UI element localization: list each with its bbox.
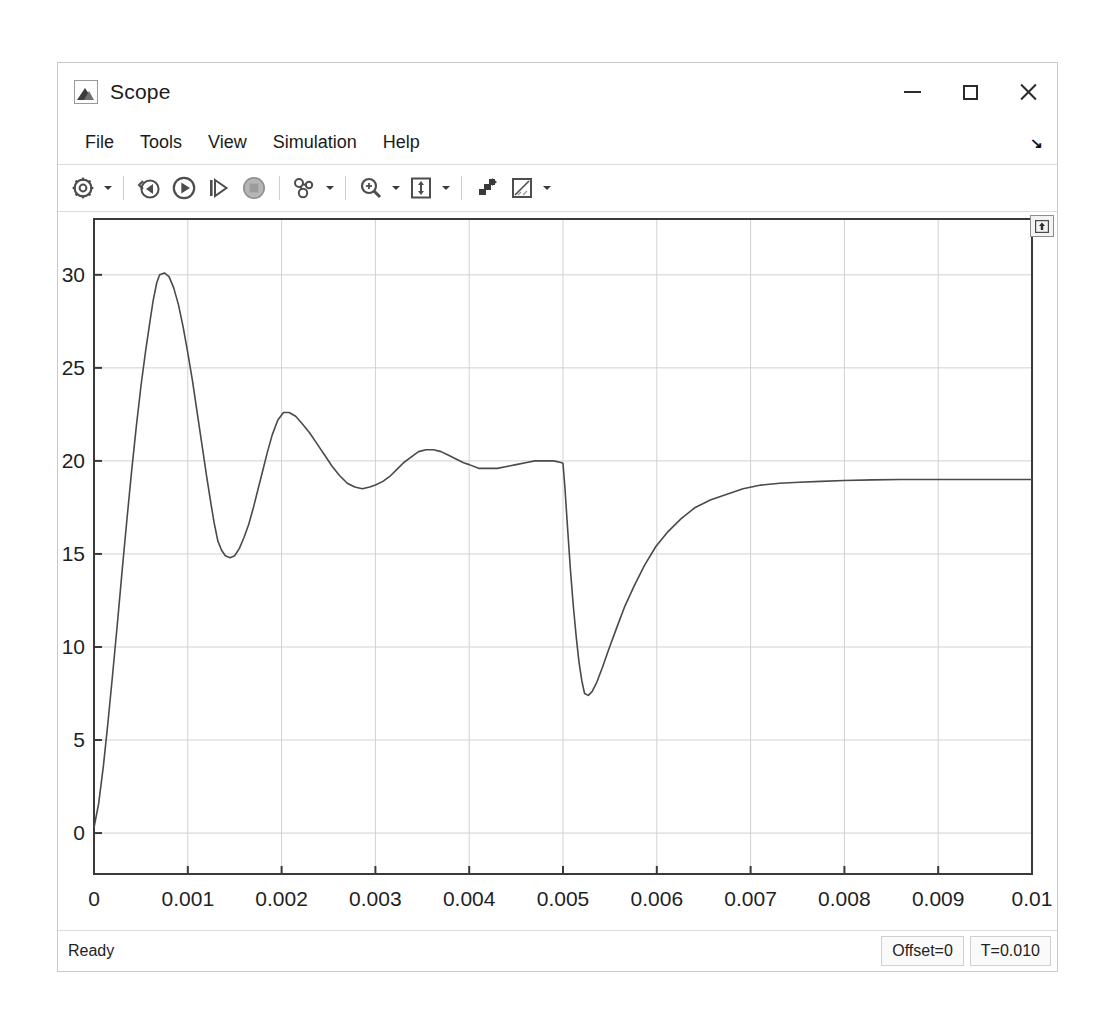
plot-area[interactable]: 05101520253000.0010.0020.0030.0040.0050.… (58, 212, 1057, 930)
svg-text:20: 20 (62, 449, 85, 472)
maximize-icon (963, 85, 978, 100)
toolbar (58, 165, 1057, 212)
svg-text:0.009: 0.009 (912, 887, 965, 910)
menu-item-tools[interactable]: Tools (127, 127, 195, 158)
menu-bar: File Tools View Simulation Help ↘ (58, 121, 1057, 165)
status-right-group: Offset=0 T=0.010 (881, 931, 1057, 971)
zoom-in-caret[interactable] (389, 171, 403, 205)
status-time: T=0.010 (970, 936, 1051, 966)
zoom-in-icon[interactable] (354, 171, 388, 205)
svg-text:30: 30 (62, 263, 85, 286)
close-icon (1019, 83, 1037, 101)
measurements-caret[interactable] (540, 171, 554, 205)
window-title: Scope (110, 80, 171, 104)
svg-text:0.006: 0.006 (631, 887, 684, 910)
svg-text:10: 10 (62, 635, 85, 658)
svg-text:0.002: 0.002 (255, 887, 308, 910)
autoscale-caret[interactable] (439, 171, 453, 205)
menu-item-file[interactable]: File (72, 127, 127, 158)
configuration-properties-icon[interactable] (66, 171, 100, 205)
menu-item-simulation[interactable]: Simulation (260, 127, 370, 158)
svg-text:0.01: 0.01 (1012, 887, 1053, 910)
expand-panel-up-icon[interactable] (1030, 215, 1054, 237)
status-offset: Offset=0 (881, 936, 964, 966)
title-bar: Scope (58, 63, 1057, 121)
simulation-stepping-caret[interactable] (323, 171, 337, 205)
stop-icon[interactable] (237, 171, 271, 205)
svg-text:0.005: 0.005 (537, 887, 590, 910)
toolbar-separator (345, 176, 346, 200)
toolbar-separator (123, 176, 124, 200)
svg-text:0.008: 0.008 (818, 887, 871, 910)
svg-text:0.003: 0.003 (349, 887, 402, 910)
menu-item-view[interactable]: View (195, 127, 260, 158)
status-bar: Ready Offset=0 T=0.010 (58, 930, 1057, 971)
menu-expand-icon[interactable]: ↘ (1030, 135, 1043, 151)
measurements-ruler-icon[interactable] (505, 171, 539, 205)
svg-text:0.004: 0.004 (443, 887, 496, 910)
window-controls (883, 63, 1057, 121)
matlab-scope-icon (74, 80, 98, 104)
status-ready-label: Ready (58, 942, 114, 960)
configuration-properties-caret[interactable] (101, 171, 115, 205)
close-button[interactable] (999, 63, 1057, 121)
maximize-button[interactable] (941, 63, 999, 121)
svg-text:0: 0 (88, 887, 100, 910)
menu-item-help[interactable]: Help (370, 127, 433, 158)
scope-window: Scope File Tools View Simulation Help ↘ (57, 62, 1058, 972)
toolbar-separator (461, 176, 462, 200)
run-icon[interactable] (167, 171, 201, 205)
svg-text:0: 0 (73, 821, 85, 844)
svg-text:5: 5 (73, 728, 85, 751)
autoscale-icon[interactable] (404, 171, 438, 205)
toolbar-separator (279, 176, 280, 200)
svg-text:0.007: 0.007 (724, 887, 777, 910)
scope-plot: 05101520253000.0010.0020.0030.0040.0050.… (58, 212, 1057, 930)
step-forward-icon[interactable] (202, 171, 236, 205)
run-back-to-start-icon[interactable] (132, 171, 166, 205)
svg-text:25: 25 (62, 356, 85, 379)
minimize-button[interactable] (883, 63, 941, 121)
minimize-icon (904, 91, 921, 93)
svg-text:15: 15 (62, 542, 85, 565)
svg-text:0.001: 0.001 (162, 887, 215, 910)
simulation-stepping-options-icon[interactable] (288, 171, 322, 205)
cursor-measurements-icon[interactable] (470, 171, 504, 205)
